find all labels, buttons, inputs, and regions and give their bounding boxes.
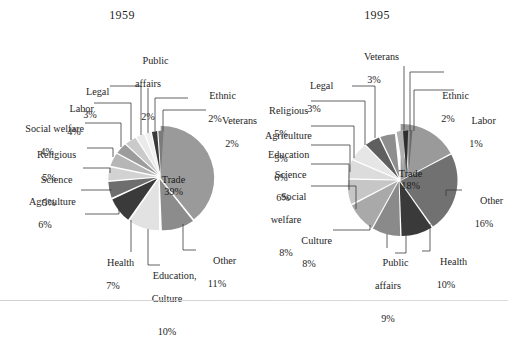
label-labor-1995: Labor 1%	[454, 104, 498, 171]
slice-label-trade-1995: Trade 18%	[382, 157, 424, 203]
page-margin	[0, 303, 508, 314]
label-public-affairs-1959: Public affairs 2%	[118, 44, 178, 145]
slice-label-trade-1959: Trade 39%	[146, 163, 186, 209]
label-other-1959: Other 11%	[196, 244, 238, 311]
label-agriculture-1959: Agriculture 6%	[8, 185, 82, 252]
slice-name-trade-1995: Trade	[399, 168, 422, 179]
slice-pct-trade-1995: 18%	[401, 180, 420, 191]
label-education-culture-1959: Education, Culture 10%	[136, 259, 198, 339]
label-public-affairs-1995: Public affairs 9%	[362, 246, 414, 339]
chart-panel-1959: 1959	[0, 0, 254, 314]
slice-name-trade-1959: Trade	[162, 174, 185, 185]
label-other-1995: Other 16%	[462, 184, 506, 251]
slice-pct-trade-1959: 39%	[164, 186, 183, 197]
chart-panel-1995: 1995	[254, 0, 508, 314]
label-culture-1995: Culture 8%	[284, 224, 334, 291]
label-veterans-1995: Veterans 3%	[346, 40, 402, 107]
page-edge-line	[0, 300, 508, 301]
